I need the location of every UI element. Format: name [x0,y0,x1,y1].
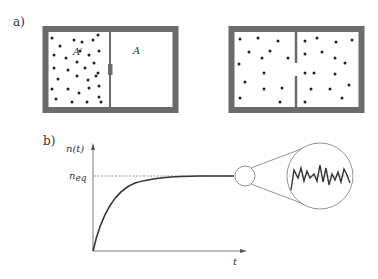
particle [316,37,319,40]
particle [304,72,307,75]
particle [287,57,290,60]
particle [98,50,101,53]
particle [321,51,324,54]
particle [92,39,95,42]
particle [244,81,247,84]
particle [329,88,332,91]
particle [348,84,351,87]
particle [261,57,264,60]
particle [57,78,60,81]
particle [279,101,282,104]
region-label-a: A [132,45,140,56]
particle [59,45,62,48]
particle [81,41,84,44]
particle [304,40,307,43]
particle [263,88,266,91]
particle [313,72,316,75]
particle [281,87,284,90]
y-axis-label: n(t) [66,143,84,154]
particle [248,51,251,54]
particle [76,61,79,64]
particle [263,72,266,75]
particle [67,88,70,91]
particle [55,98,58,101]
panel-a-label: a) [13,15,25,29]
particle [93,62,96,65]
particle [88,87,91,90]
particles-left [51,34,103,104]
particle [88,54,91,57]
particle [239,38,242,41]
particle [65,57,68,60]
particle [97,72,100,75]
particle [239,97,242,100]
particle [310,88,313,91]
zoom-circle-small [235,166,255,186]
particle [98,85,101,88]
figure: a) A′ A b) n(t) t neq [0,0,378,279]
particle [95,75,98,78]
x-axis-label: t [233,256,238,267]
particle [238,63,241,66]
particle [51,37,54,40]
right-container [232,29,362,110]
particle [344,62,347,65]
particle [334,73,337,76]
region-label-a-prime: A′ [72,46,83,57]
particle [334,57,337,60]
particle [351,39,354,42]
particle [71,101,74,104]
particle [304,53,307,56]
particle [67,69,70,72]
particle [335,41,338,44]
particle [341,97,344,100]
valve-icon [108,64,113,75]
particle [97,34,100,37]
particle [78,92,81,95]
equilibrium-label: neq [69,170,87,183]
particle [86,101,89,104]
particle [100,101,103,104]
particle [76,75,79,78]
left-container: A′ A [46,29,176,110]
particle [51,88,54,91]
zoom-inset [287,143,353,209]
particle [53,67,56,70]
particle [87,79,90,82]
particle [98,96,101,99]
particle [53,54,56,57]
particle [269,50,272,53]
x-arrow-icon [240,249,247,253]
particle [257,37,260,40]
particle [84,67,87,70]
n-t-curve [93,176,234,251]
particle [73,39,76,42]
panel-b-label: b) [43,134,55,148]
y-arrow-icon [91,143,95,150]
particle [277,40,280,43]
particle [304,101,307,104]
